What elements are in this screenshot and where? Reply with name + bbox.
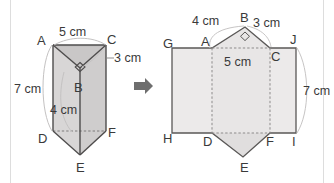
prism-dim-top-5cm: 5 cm bbox=[59, 25, 86, 39]
prism-vertex-label-D: D bbox=[38, 131, 47, 146]
net-group: G H A B C J D E F I 4 cm 3 cm 5 cm 7 cm bbox=[163, 10, 330, 175]
net-vertex-label-F: F bbox=[266, 134, 274, 149]
net-vertex-label-G: G bbox=[163, 36, 173, 51]
prism-arc-7cm bbox=[43, 45, 52, 131]
prism-arc-5cm bbox=[54, 38, 106, 45]
net-dim-3cm: 3 cm bbox=[253, 16, 280, 30]
net-dim-7cm: 7 cm bbox=[303, 84, 330, 98]
geometry-figure: A B C D E F 5 cm 3 cm 7 cm 4 cm bbox=[0, 0, 334, 183]
prism-vertex-label-C: C bbox=[107, 32, 116, 47]
net-dim-4cm: 4 cm bbox=[192, 14, 219, 28]
net-vertex-label-D: D bbox=[203, 134, 212, 149]
prism-vertex-label-B: B bbox=[74, 80, 83, 95]
net-vertex-label-B: B bbox=[240, 10, 249, 25]
right-arrow-icon bbox=[134, 78, 153, 94]
prism-group: A B C D E F 5 cm 3 cm 7 cm 4 cm bbox=[14, 25, 141, 175]
figure-canvas: A B C D E F 5 cm 3 cm 7 cm 4 cm bbox=[0, 0, 334, 183]
net-vertex-label-A: A bbox=[201, 34, 210, 49]
net-vertex-label-H: H bbox=[163, 131, 172, 146]
net-vertex-label-I: I bbox=[292, 134, 296, 149]
net-dim-5cm: 5 cm bbox=[224, 55, 251, 69]
prism-dim-height-7cm: 7 cm bbox=[14, 82, 41, 96]
net-vertex-label-J: J bbox=[290, 32, 297, 47]
prism-dim-right-3cm: 3 cm bbox=[114, 51, 141, 65]
prism-dim-front-4cm: 4 cm bbox=[50, 103, 77, 117]
net-face-left-rect bbox=[172, 48, 212, 133]
prism-vertex-label-A: A bbox=[37, 33, 46, 48]
net-vertex-label-E: E bbox=[240, 160, 249, 175]
prism-vertex-label-F: F bbox=[108, 125, 116, 140]
net-vertex-label-C: C bbox=[271, 49, 280, 64]
net-face-bottom-triangle bbox=[212, 133, 270, 157]
prism-vertex-label-E: E bbox=[76, 160, 85, 175]
